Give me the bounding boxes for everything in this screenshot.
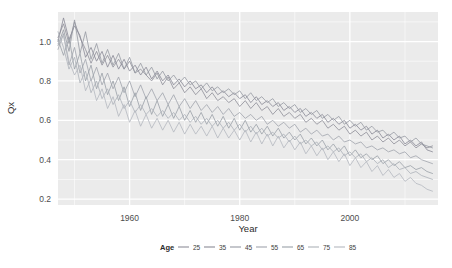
legend-label-age-45: 45 xyxy=(245,244,253,251)
legend-label-age-35: 35 xyxy=(219,244,227,251)
chart-container: 0.20.40.60.81.0 196019802000 Qx Year Age… xyxy=(0,0,452,268)
legend-label-age-65: 65 xyxy=(297,244,305,251)
x-axis-tick-label: 1980 xyxy=(230,213,249,223)
y-axis-tick-label: 0.8 xyxy=(39,76,51,86)
x-axis-tick-label: 2000 xyxy=(340,213,359,223)
y-axis-tick-label: 1.0 xyxy=(39,37,51,47)
y-axis-title: Qx xyxy=(5,102,16,114)
legend-label-age-25: 25 xyxy=(193,244,201,251)
legend-title: Age xyxy=(160,243,174,252)
y-axis-tick-label: 0.6 xyxy=(39,115,51,125)
line-chart: 0.20.40.60.81.0 196019802000 Qx Year Age… xyxy=(0,0,452,268)
legend-label-age-85: 85 xyxy=(349,244,357,251)
legend-label-age-75: 75 xyxy=(323,244,331,251)
legend-label-age-55: 55 xyxy=(271,244,279,251)
x-axis-title: Year xyxy=(238,223,257,234)
y-axis-tick-label: 0.2 xyxy=(39,194,51,204)
y-axis-tick-label: 0.4 xyxy=(39,155,51,165)
x-axis-tick-label: 1960 xyxy=(120,213,139,223)
